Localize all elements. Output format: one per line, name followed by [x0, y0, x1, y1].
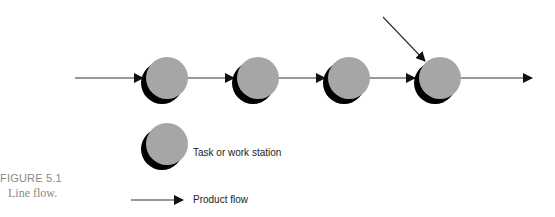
line-flow-diagram — [0, 0, 555, 217]
work-station-2 — [232, 57, 279, 104]
work-station-1 — [141, 57, 188, 104]
work-station-4 — [414, 57, 461, 104]
legend-station-symbol — [141, 123, 188, 170]
work-station-3 — [323, 57, 370, 104]
side-input-flow-arrow — [383, 17, 425, 61]
legend-flow-label: Product flow — [193, 194, 248, 205]
figure-label: FIGURE 5.1 — [0, 172, 62, 184]
legend-station-label: Task or work station — [193, 147, 281, 158]
figure-caption: Line flow. — [8, 186, 57, 201]
